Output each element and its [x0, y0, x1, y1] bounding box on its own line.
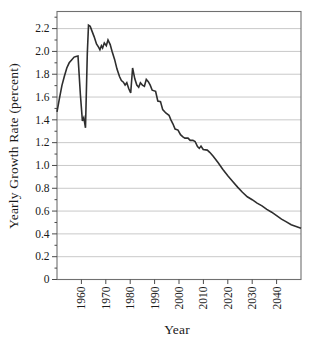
y-axis-title: Yearly Growth Rate (percent) [6, 63, 22, 229]
x-tick-label: 1990 [149, 286, 161, 309]
y-tick-label: 1.6 [35, 91, 50, 103]
x-tick-label: 1960 [75, 286, 87, 309]
x-tick-label: 2010 [197, 286, 209, 309]
y-tick-label: 2.2 [35, 22, 50, 34]
y-tick-label: 0 [44, 273, 50, 285]
y-tick-label: 1.4 [35, 114, 50, 126]
growth-rate-line-chart: 00.20.40.60.81.01.21.41.61.82.02.2196019… [0, 0, 318, 351]
growth-rate-series-line [57, 25, 301, 228]
y-tick-label: 0.8 [35, 182, 50, 194]
y-tick-label: 0.4 [35, 228, 50, 240]
y-tick-label: 0.2 [35, 250, 50, 262]
y-tick-label: 1.2 [35, 136, 50, 148]
x-tick-label: 2000 [173, 286, 185, 309]
y-tick-label: 0.6 [35, 205, 50, 217]
growth-rate-chart-figure: 00.20.40.60.81.01.21.41.61.82.02.2196019… [0, 0, 318, 351]
y-tick-label: 1.8 [35, 68, 50, 80]
x-tick-label: 1980 [124, 286, 136, 309]
x-axis-title: Year [164, 322, 190, 338]
x-tick-label: 1970 [100, 286, 112, 309]
y-tick-label: 2.0 [35, 45, 50, 57]
x-tick-label: 2040 [271, 286, 283, 309]
x-tick-label: 2020 [222, 286, 234, 309]
x-tick-label: 2030 [246, 286, 258, 309]
y-tick-label: 1.0 [35, 159, 50, 171]
